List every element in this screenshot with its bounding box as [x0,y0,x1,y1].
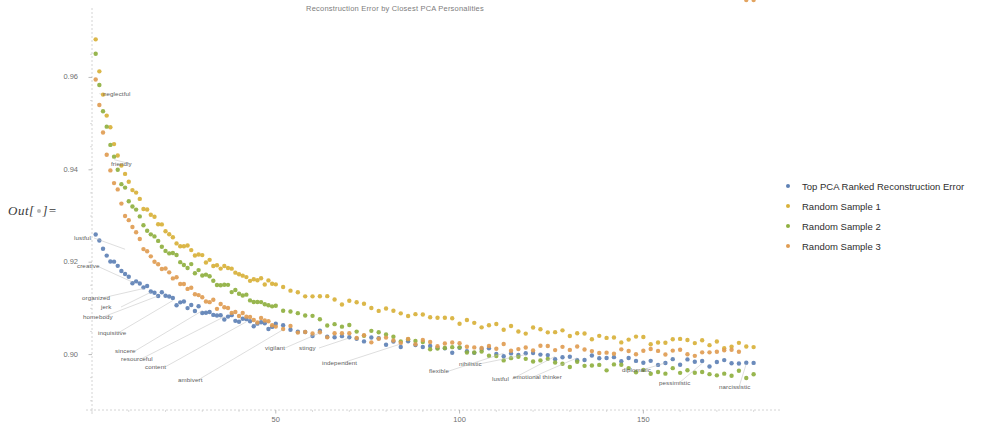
point-annotation-label: flexible [429,367,449,374]
point-annotation-label: neglectful [103,90,131,97]
point-annotation-label: sincere [115,347,136,354]
chart-legend: Top PCA Ranked Reconstruction ErrorRando… [782,176,1000,256]
plot-canvas [0,0,790,429]
point-annotation-label: lustful [74,234,91,241]
point-annotation-label: emotional thinker [513,373,562,380]
point-annotation-label: organized [82,294,110,301]
legend-item[interactable]: Random Sample 2 [782,216,1000,236]
series-2-points [93,37,755,350]
x-tick-label: 50 [256,415,296,424]
point-annotation-label: content [145,363,166,370]
legend-item[interactable]: Top PCA Ranked Reconstruction Error [782,176,1000,196]
data-series-group [93,0,755,380]
legend-item-label: Random Sample 3 [802,241,881,252]
point-annotation-label: ambivert [178,376,203,383]
notebook-output-cell: Out[]= Reconstruction Error by Closest P… [0,0,1000,429]
x-tick-label: 100 [440,415,480,424]
point-annotation-label: pessimistic [659,379,690,386]
legend-marker-icon [786,204,790,208]
point-annotation-label: homebody [83,313,113,320]
point-annotation-label: nihilistic [459,360,482,367]
legend-item[interactable]: Random Sample 3 [782,236,1000,256]
legend-item-label: Random Sample 1 [802,201,881,212]
point-annotation-label: inquisitive [98,329,126,336]
scatter-plot: Reconstruction Error by Closest PCA Pers… [0,0,790,429]
series-1-points [93,232,755,368]
y-tick-label: 0.94 [38,165,78,174]
y-tick-label: 0.96 [38,72,78,81]
point-annotation-label: lustful [492,375,509,382]
point-annotation-label: creative [77,262,99,269]
legend-marker-icon [786,244,790,248]
legend-marker-icon [786,224,790,228]
point-annotation-label: resourceful [121,355,153,362]
y-tick-label: 0.90 [38,350,78,359]
legend-item-label: Random Sample 2 [802,221,881,232]
point-annotation-label: narcissistic [719,383,750,390]
point-annotation-label: independent [322,359,357,366]
legend-marker-icon [786,184,790,188]
point-annotation-label: vigilant [265,344,285,351]
point-annotation-label: stingy [299,344,316,351]
point-annotation-label: diplomatic [622,366,651,373]
series-3-points [93,52,755,381]
legend-item-label: Top PCA Ranked Reconstruction Error [802,181,964,192]
point-annotation-label: friendly [111,160,132,167]
point-annotation-label: jerk [101,303,111,310]
y-tick-label: 0.92 [38,257,78,266]
legend-item[interactable]: Random Sample 1 [782,196,1000,216]
x-tick-label: 150 [623,415,663,424]
